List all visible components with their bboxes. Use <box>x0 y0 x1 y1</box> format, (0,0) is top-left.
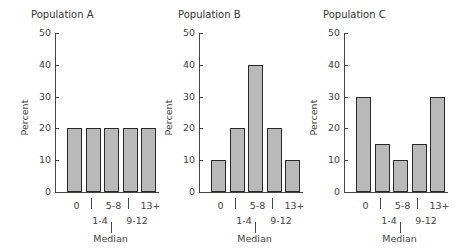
y-tick <box>55 33 59 34</box>
y-tick-label: 0 <box>35 186 51 197</box>
x-axis-label: Median <box>91 233 131 244</box>
y-tick-label: 30 <box>35 91 51 102</box>
bar-5-8 <box>104 128 119 192</box>
y-tick <box>55 65 59 66</box>
y-axis-label: Percent <box>19 100 30 136</box>
label-divider <box>128 198 129 209</box>
y-tick <box>199 97 203 98</box>
x-tick-label: 13+ <box>136 200 166 211</box>
x-tick-label: 5-8 <box>99 200 129 211</box>
y-tick-label: 40 <box>35 59 51 70</box>
label-divider <box>380 198 381 209</box>
y-tick <box>55 97 59 98</box>
y-tick <box>199 128 203 129</box>
x-axis-label: Median <box>380 233 420 244</box>
median-marker <box>400 222 401 233</box>
x-tick-label: 0 <box>351 200 381 211</box>
y-tick <box>55 128 59 129</box>
chart-title: Population B <box>178 9 241 20</box>
x-tick-label: 13+ <box>425 200 455 211</box>
y-tick-label: 50 <box>179 27 195 38</box>
y-axis-label: Percent <box>163 100 174 136</box>
y-tick <box>199 65 203 66</box>
x-axis-label: Median <box>235 233 275 244</box>
y-tick-label: 20 <box>179 122 195 133</box>
bar-13plus <box>430 97 445 192</box>
x-tick-label: 0 <box>206 200 236 211</box>
y-axis <box>199 33 200 192</box>
y-axis-label: Percent <box>308 100 319 136</box>
y-tick-label: 0 <box>179 186 195 197</box>
bar-1-4 <box>86 128 101 192</box>
y-tick-label: 40 <box>179 59 195 70</box>
bar-1-4 <box>230 128 245 192</box>
bar-13plus <box>285 160 300 192</box>
label-divider <box>235 198 236 209</box>
y-axis <box>55 33 56 192</box>
x-tick-label: 0 <box>62 200 92 211</box>
y-tick <box>344 160 348 161</box>
bar-9-12 <box>412 144 427 192</box>
label-divider <box>91 198 92 209</box>
bar-5-8 <box>393 160 408 192</box>
y-tick-label: 50 <box>324 27 340 38</box>
y-tick-label: 10 <box>179 154 195 165</box>
x-tick-label: 9-12 <box>411 215 441 226</box>
y-tick-label: 0 <box>324 186 340 197</box>
y-tick-label: 30 <box>179 91 195 102</box>
x-tick-label: 13+ <box>280 200 310 211</box>
median-marker <box>111 222 112 233</box>
y-tick <box>55 192 59 193</box>
bar-0 <box>211 160 226 192</box>
y-axis <box>344 33 345 192</box>
label-divider <box>417 198 418 209</box>
y-tick <box>344 33 348 34</box>
bar-0 <box>356 97 371 192</box>
bar-9-12 <box>267 128 282 192</box>
bar-0 <box>67 128 82 192</box>
x-tick-label: 5-8 <box>388 200 418 211</box>
y-tick <box>199 33 203 34</box>
y-tick <box>344 128 348 129</box>
y-tick <box>199 160 203 161</box>
y-tick-label: 10 <box>35 154 51 165</box>
x-tick-label: 5-8 <box>243 200 273 211</box>
y-tick <box>344 192 348 193</box>
y-tick-label: 20 <box>35 122 51 133</box>
y-tick-label: 30 <box>324 91 340 102</box>
y-tick-label: 20 <box>324 122 340 133</box>
y-tick <box>199 192 203 193</box>
y-tick-label: 50 <box>35 27 51 38</box>
label-divider <box>272 198 273 209</box>
bar-9-12 <box>123 128 138 192</box>
x-tick-label: 9-12 <box>266 215 296 226</box>
x-axis <box>55 192 159 193</box>
x-tick-label: 9-12 <box>122 215 152 226</box>
y-tick <box>344 97 348 98</box>
chart-title: Population A <box>31 9 94 20</box>
bar-13plus <box>141 128 156 192</box>
y-tick-label: 40 <box>324 59 340 70</box>
x-axis <box>344 192 448 193</box>
median-marker <box>255 222 256 233</box>
x-axis <box>199 192 303 193</box>
bar-1-4 <box>375 144 390 192</box>
y-tick <box>55 160 59 161</box>
chart-title: Population C <box>323 9 386 20</box>
y-tick-label: 10 <box>324 154 340 165</box>
bar-5-8 <box>248 65 263 192</box>
y-tick <box>344 65 348 66</box>
